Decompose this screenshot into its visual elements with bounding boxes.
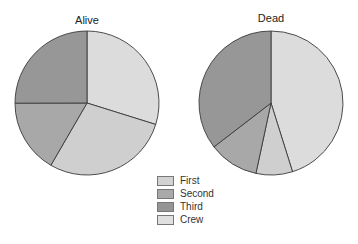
legend-item-third: Third (157, 200, 214, 213)
legend-item-second: Second (157, 187, 214, 200)
legend-swatch-crew (157, 215, 174, 225)
legend-item-first: First (157, 174, 214, 187)
legend-label-crew: Crew (180, 214, 203, 225)
alive-pie-chart (15, 31, 159, 175)
legend-label-second: Second (180, 188, 214, 199)
legend-label-first: First (180, 175, 199, 186)
legend-swatch-second (157, 189, 174, 199)
legend-swatch-third (157, 202, 174, 212)
pie-slice-third (15, 31, 87, 103)
legend-label-third: Third (180, 201, 203, 212)
legend-item-crew: Crew (157, 213, 214, 226)
legend-swatch-first (157, 176, 174, 186)
legend: First Second Third Crew (157, 174, 214, 226)
dead-pie-chart (199, 31, 343, 175)
